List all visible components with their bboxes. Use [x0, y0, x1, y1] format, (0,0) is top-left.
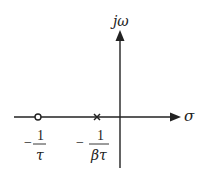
pole-label-numerator: 1 [97, 128, 104, 143]
zero-label: − 1 τ [24, 128, 46, 163]
zero-marker-icon [35, 114, 41, 120]
pole-label: − 1 βτ [76, 128, 109, 163]
sigma-axis-arrowhead-icon [170, 113, 181, 122]
sigma-label: σ [184, 107, 195, 125]
s-plane-diagram: jω σ − 1 τ − 1 βτ [0, 0, 202, 178]
jomega-label: jω [110, 13, 129, 29]
zero-label-numerator: 1 [37, 128, 44, 143]
zero-label-sign: − [24, 135, 32, 150]
pole-label-sign: − [76, 135, 84, 150]
pole-label-denominator: βτ [90, 147, 107, 163]
jomega-axis-arrowhead-icon [116, 30, 125, 41]
zero-label-denominator: τ [36, 147, 44, 163]
